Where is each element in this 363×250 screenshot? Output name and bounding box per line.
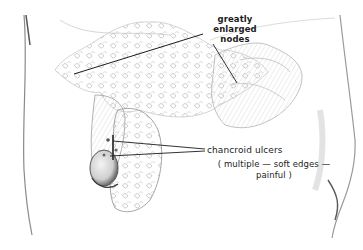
anatomy-drawing — [0, 0, 363, 250]
left-thigh-outline — [24, 15, 32, 235]
medical-illustration: greatly enlarged nodes chancroid ulcers … — [0, 0, 363, 250]
nodes-label-line3: nodes — [203, 34, 267, 44]
nodes-label-line1: greatly — [203, 14, 267, 24]
chancroid-ulcers-label: chancroid ulcers — [207, 145, 283, 155]
ulcer-description-line2: painful ) — [194, 170, 354, 181]
ulcer-description-line1: ( multiple — soft edges — — [194, 159, 354, 170]
nodes-label-line2: enlarged — [203, 24, 267, 34]
enlarged-nodes-label: greatly enlarged nodes — [203, 14, 267, 44]
right-thigh-outline — [332, 15, 355, 238]
ulcer-description-label: ( multiple — soft edges — painful ) — [194, 159, 354, 181]
scrotum — [110, 108, 162, 211]
